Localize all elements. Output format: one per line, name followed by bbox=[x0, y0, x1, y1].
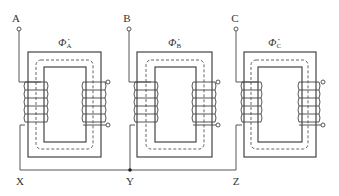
flux-path-c bbox=[251, 60, 308, 149]
transformer-c: C Φ̇C bbox=[231, 12, 325, 170]
core-window-b bbox=[155, 67, 196, 142]
transformer-b: B Φ̇B bbox=[123, 12, 220, 170]
terminal-label-a: A bbox=[12, 12, 20, 24]
flux-label-a: Φ̇A bbox=[58, 36, 71, 50]
core-window-a bbox=[44, 67, 86, 142]
core-outer-c bbox=[244, 52, 316, 157]
primary-lead-a bbox=[19, 31, 41, 82]
neutral-label-y: Y bbox=[126, 175, 134, 187]
transformer-diagram: A Φ̇A bbox=[0, 0, 339, 196]
secondary-terminal-c2[interactable] bbox=[321, 123, 325, 127]
input-terminal-a[interactable] bbox=[17, 27, 21, 31]
core-outer-b bbox=[137, 52, 212, 157]
terminal-label-c: C bbox=[231, 12, 238, 24]
secondary-terminal-a2[interactable] bbox=[106, 123, 110, 127]
core-window-c bbox=[258, 67, 302, 142]
secondary-terminal-c1[interactable] bbox=[321, 80, 325, 84]
secondary-coil-c bbox=[298, 82, 320, 122]
primary-lead-b bbox=[129, 31, 151, 82]
flux-label-c: Φ̇C bbox=[268, 36, 281, 50]
secondary-terminal-b2[interactable] bbox=[216, 123, 220, 127]
core-outer-a bbox=[28, 52, 101, 157]
input-terminal-c[interactable] bbox=[234, 27, 238, 31]
star-point-dot bbox=[128, 168, 132, 172]
primary-lead-c bbox=[236, 31, 258, 82]
neutral-label-z: Z bbox=[233, 175, 240, 187]
neutral-label-x: X bbox=[16, 175, 24, 187]
primary-return-a bbox=[20, 125, 25, 170]
flux-label-b: Φ̇B bbox=[168, 36, 181, 50]
primary-return-c bbox=[236, 125, 242, 170]
primary-return-b bbox=[130, 125, 135, 170]
terminal-label-b: B bbox=[123, 12, 130, 24]
transformer-a: A Φ̇A bbox=[12, 12, 110, 170]
secondary-terminal-b1[interactable] bbox=[216, 80, 220, 84]
secondary-terminal-a1[interactable] bbox=[106, 80, 110, 84]
input-terminal-b[interactable] bbox=[127, 27, 131, 31]
